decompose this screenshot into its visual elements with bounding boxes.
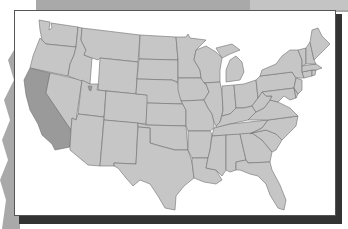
state-south-dakota[interactable] [137, 59, 178, 82]
state-florida[interactable] [236, 160, 286, 210]
state-colorado[interactable] [104, 91, 148, 124]
state-rhode-island[interactable] [312, 70, 316, 76]
state-kansas[interactable] [146, 103, 186, 126]
state-north-dakota[interactable] [139, 35, 178, 60]
state-montana[interactable] [81, 28, 140, 62]
us-map [0, 0, 348, 229]
state-maine[interactable] [310, 28, 330, 60]
state-new-mexico[interactable] [100, 120, 138, 166]
state-arizona[interactable] [70, 114, 104, 166]
state-arkansas[interactable] [188, 131, 212, 158]
state-wyoming[interactable] [98, 58, 138, 94]
